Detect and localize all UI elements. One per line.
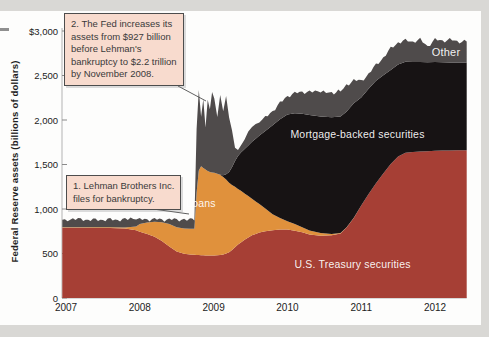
x-tick-label: 2009	[202, 302, 225, 313]
y-tick-label: 1,000	[34, 204, 58, 215]
figure-page: $3,0002,5002,0001,5001,00050002007200820…	[0, 0, 489, 337]
y-tick-label: 1,500	[34, 159, 58, 170]
area-label-other: Other	[414, 46, 478, 58]
x-tick-label: 2010	[276, 302, 299, 313]
x-tick-label: 2012	[424, 302, 447, 313]
area-label-loans: Loans	[179, 197, 223, 209]
x-tick-label: 2007	[55, 302, 78, 313]
x-tick-label: 2011	[350, 302, 372, 313]
annotation-lehman-bankruptcy: 1. Lehman Brothers Inc. files for bankru…	[66, 175, 181, 210]
y-tick-label: 2,500	[34, 70, 58, 81]
y-axis-title: Federal Reserve assets (billions of doll…	[9, 12, 20, 312]
area-label-mortgage-backed-securities: Mortgage-backed securities	[275, 128, 440, 140]
y-tick-label: $3,000	[29, 26, 58, 37]
annotation-fed-increases-assets: 2. The Fed increases its assets from $92…	[64, 13, 184, 86]
x-tick-label: 2008	[129, 302, 152, 313]
y-tick-label: 2,000	[34, 115, 58, 126]
area-label-us-treasury-securities: U.S. Treasury securities	[270, 258, 435, 270]
y-tick-label: 500	[42, 248, 58, 259]
